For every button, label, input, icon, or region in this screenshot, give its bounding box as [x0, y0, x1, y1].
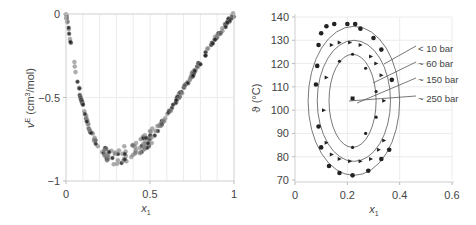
data-point [93, 138, 97, 142]
right-y-tick-label: 130 [271, 34, 289, 46]
data-point [123, 157, 127, 161]
data-point [107, 150, 111, 154]
data-point [144, 136, 148, 140]
excess-volume-chart: 0−0.5−1 00.51 vE (cm3/mol) x1 [24, 8, 237, 216]
data-point [324, 24, 329, 29]
data-point [319, 31, 324, 36]
data-point [150, 141, 154, 145]
data-point [83, 112, 87, 116]
right-y-tick-label: 140 [271, 11, 289, 23]
data-point [85, 120, 89, 124]
left-x-tick-label: 0.5 [142, 188, 157, 200]
data-point [67, 26, 71, 30]
left-y-axis-label: vE (cm3/mol) [24, 68, 36, 128]
data-point [379, 47, 384, 52]
data-point [150, 127, 154, 131]
data-point-square [351, 97, 355, 101]
data-point [218, 32, 222, 36]
right-y-tick-label: 70 [277, 174, 289, 186]
right-y-tick-label: 120 [271, 58, 289, 70]
left-y-tick-label: 0 [54, 8, 60, 20]
data-point [345, 22, 350, 27]
left-x-tick-label: 1 [231, 188, 237, 200]
data-point [193, 69, 197, 73]
data-point [131, 153, 135, 157]
data-point [211, 42, 215, 46]
right-data-points [314, 22, 394, 178]
right-x-tick-label: 0.4 [392, 189, 407, 201]
right-y-tick-label: 80 [277, 151, 289, 163]
data-point [351, 53, 354, 56]
left-x-ticks: 00.51 [63, 181, 237, 200]
data-point-triangle [325, 76, 329, 80]
left-x-tick-label: 0 [63, 188, 69, 200]
data-point [204, 54, 208, 58]
data-point [68, 40, 72, 44]
pressure-label: ~ 250 bar [418, 93, 458, 104]
pressure-annotations: < 10 bar~ 60 bar~ 150 bar~ 250 bar [349, 43, 458, 104]
data-point [155, 124, 159, 128]
data-point [314, 82, 319, 87]
data-point [116, 158, 120, 162]
right-y-tick-label: 100 [271, 104, 289, 116]
data-point [138, 151, 142, 155]
data-point [67, 32, 71, 36]
left-grid [66, 14, 234, 181]
data-point [117, 149, 121, 153]
data-point [387, 147, 392, 152]
data-point [390, 78, 395, 83]
data-point-triangle [322, 108, 326, 112]
right-x-tick-label: 0.6 [444, 189, 459, 201]
data-point [102, 148, 106, 152]
data-point [134, 150, 138, 154]
data-point-triangle [369, 157, 373, 161]
data-point [159, 124, 163, 128]
data-point [206, 46, 210, 50]
data-point-triangle [382, 138, 386, 142]
data-point [81, 103, 85, 107]
data-point [353, 22, 358, 27]
data-point [319, 145, 324, 150]
data-point [183, 83, 187, 87]
data-point [77, 86, 81, 90]
data-point [112, 162, 116, 166]
data-point [198, 62, 202, 66]
data-point [110, 156, 114, 160]
data-point [132, 143, 136, 147]
data-point [213, 37, 217, 41]
data-point [138, 146, 142, 150]
data-point [315, 64, 320, 69]
data-point [191, 74, 195, 78]
data-point-triangle [348, 159, 352, 163]
data-point [350, 173, 355, 178]
right-y-tick-label: 110 [271, 81, 289, 93]
data-point [364, 132, 367, 135]
data-point [332, 22, 337, 27]
data-point [358, 26, 363, 31]
data-point [364, 67, 367, 70]
data-point [171, 103, 175, 107]
data-point [169, 108, 173, 112]
right-y-axis-label: ϑ (°C) [250, 84, 262, 113]
data-point [94, 142, 98, 146]
data-point-triangle [374, 62, 378, 66]
right-x-tick-label: 0 [292, 189, 298, 201]
data-point [73, 65, 77, 69]
pressure-label: ~ 150 bar [418, 74, 458, 85]
data-point [88, 128, 92, 132]
data-point [123, 152, 127, 156]
data-point [327, 164, 332, 169]
data-point [76, 80, 80, 84]
data-point [316, 43, 321, 48]
data-point [113, 152, 117, 156]
data-point [316, 124, 321, 129]
data-point [146, 141, 150, 145]
right-y-ticks: 140130120110100908070 [271, 11, 295, 186]
data-point-triangle [382, 99, 386, 103]
left-y-ticks: 0−0.5−1 [38, 8, 66, 187]
data-point-triangle [377, 148, 381, 152]
data-point [150, 135, 154, 139]
left-y-tick-label: −0.5 [38, 92, 60, 104]
data-point [375, 116, 378, 119]
pressure-label: ~ 60 bar [418, 58, 453, 69]
